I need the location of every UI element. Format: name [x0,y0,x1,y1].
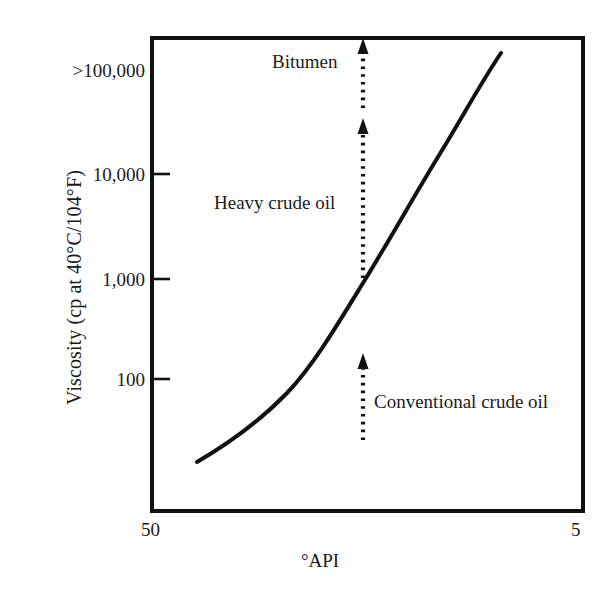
chart-canvas [0,0,612,602]
y-tick-label-10000: 10,000 [93,165,145,184]
x-tick-label-5: 5 [571,520,581,539]
y-tick-label-100000: >100,000 [73,61,145,80]
y-tick-label-1000: 1,000 [102,270,145,289]
y-axis-ticks [152,174,170,379]
x-axis-title: °API [14,551,612,570]
y-tick-label-100: 100 [117,370,146,389]
x-tick-label-50: 50 [141,520,160,539]
figure-viscosity-vs-api: >100,000 10,000 1,000 100 Viscosity (cp … [0,0,612,602]
y-axis-title: Viscosity (cp at 40°C/104°F) [63,98,86,478]
annotation-arrows [358,38,369,440]
conventional-crude-arrowhead-up [358,353,369,369]
region-label-conventional-crude-oil: Conventional crude oil [374,392,548,411]
region-label-bitumen: Bitumen [272,52,337,71]
region-label-heavy-crude-oil: Heavy crude oil [214,193,335,212]
bitumen-arrowhead-up [358,38,369,54]
heavy-crude-arrowhead-up [358,118,369,134]
